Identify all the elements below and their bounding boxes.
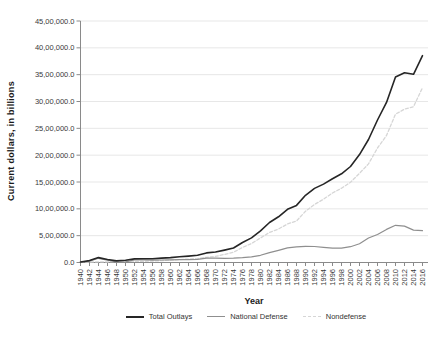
legend: Total Outlays National Defense Nondefens…	[0, 312, 436, 321]
y-tick-label: 5,00,000.0	[39, 231, 74, 240]
y-tick-label: 40,00,000.0	[35, 43, 75, 52]
y-tick-label: 25,00,000.0	[35, 124, 75, 133]
legend-swatch-total-outlays	[126, 316, 144, 318]
x-tick-label: 1962	[175, 269, 184, 286]
x-tick-label: 2012	[400, 269, 409, 286]
legend-item-nondefense: Nondefense	[303, 312, 366, 321]
y-tick-label: 45,00,000.0	[35, 17, 75, 26]
x-tick-label: 1980	[256, 269, 265, 286]
federal-outlays-line-chart: Current dollars, in billions 0.05,00,000…	[0, 0, 436, 338]
x-tick-label: 1948	[112, 269, 121, 286]
x-tick-label: 1966	[193, 269, 202, 286]
x-tick-label: 1968	[202, 269, 211, 286]
x-tick-label: 1996	[328, 269, 337, 286]
x-tick-label: 2006	[373, 269, 382, 286]
x-tick-label: 2000	[346, 269, 355, 286]
x-tick-label: 2016	[418, 269, 427, 286]
x-tick-label: 1976	[238, 269, 247, 286]
x-tick-label: 1988	[292, 269, 301, 286]
x-tick-label: 1940	[76, 269, 85, 286]
x-tick-label: 1958	[157, 269, 166, 286]
plot-area: 0.05,00,000.010,00,000.015,00,000.020,00…	[0, 0, 436, 310]
legend-item-total-outlays: Total Outlays	[126, 312, 192, 321]
x-tick-label: 1998	[337, 269, 346, 286]
y-tick-label: 10,00,000.0	[35, 204, 75, 213]
legend-item-national-defense: National Defense	[207, 312, 288, 321]
x-tick-label: 1972	[220, 269, 229, 286]
x-tick-label: 2002	[355, 269, 364, 286]
y-tick-label: 20,00,000.0	[35, 151, 75, 160]
x-tick-label: 1954	[139, 269, 148, 286]
legend-label-total-outlays: Total Outlays	[149, 312, 192, 321]
legend-swatch-national-defense	[207, 316, 225, 317]
x-tick-label: 1952	[130, 269, 139, 286]
x-tick-label: 2010	[391, 269, 400, 286]
x-tick-label: 1990	[301, 269, 310, 286]
x-tick-label: 1956	[148, 269, 157, 286]
legend-swatch-nondefense	[303, 316, 321, 317]
x-tick-label: 1944	[94, 269, 103, 286]
x-tick-label: 1974	[229, 269, 238, 286]
x-tick-label: 1946	[103, 269, 112, 286]
x-tick-label: 1994	[319, 269, 328, 286]
x-tick-label: 1982	[265, 269, 274, 286]
series-national-defense-line	[81, 225, 423, 262]
x-axis-title: Year	[80, 296, 428, 306]
x-tick-label: 1978	[247, 269, 256, 286]
y-axis-title: Current dollars, in billions	[6, 21, 20, 261]
x-tick-label: 2004	[364, 269, 373, 286]
x-tick-label: 1984	[274, 269, 283, 286]
y-tick-label: 35,00,000.0	[35, 70, 75, 79]
legend-label-nondefense: Nondefense	[326, 312, 366, 321]
x-tick-label: 1970	[211, 269, 220, 286]
x-tick-label: 1960	[166, 269, 175, 286]
y-tick-label: 0.0	[64, 258, 74, 267]
x-tick-label: 1950	[121, 269, 130, 286]
legend-label-national-defense: National Defense	[230, 312, 288, 321]
y-tick-label: 15,00,000.0	[35, 178, 75, 187]
x-tick-label: 1986	[283, 269, 292, 286]
x-tick-label: 2008	[382, 269, 391, 286]
x-tick-label: 1964	[184, 269, 193, 286]
y-tick-label: 30,00,000.0	[35, 97, 75, 106]
x-tick-label: 1992	[310, 269, 319, 286]
x-tick-label: 1942	[85, 269, 94, 286]
x-tick-label: 2014	[409, 269, 418, 286]
